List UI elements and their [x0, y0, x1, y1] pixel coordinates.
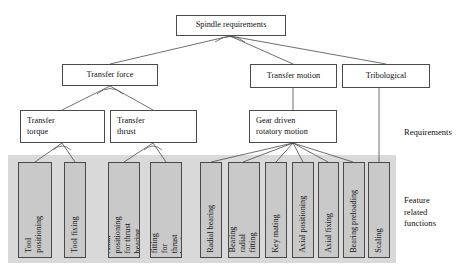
- leaf-axial-positioning-for-thrust-bearing[interactable]: Axial positioning for thrust bearing: [108, 162, 140, 258]
- leaf-label: Bearing preloading: [349, 190, 359, 253]
- leaf-tool-positioning[interactable]: Tool positioning: [18, 162, 52, 258]
- leaf-scaling[interactable]: Scaling: [368, 162, 390, 258]
- leaf-label: Axial positioning: [298, 196, 308, 253]
- diagram-canvas: Spindle requirements Transfer force Tran…: [0, 0, 466, 273]
- leaf-radial-fitting-for-thrust-bearing[interactable]: Radial fitting for thrust bearing: [150, 162, 182, 258]
- node-gear-driven-rotatory-motion[interactable]: Gear driven rotatory motion: [249, 110, 337, 143]
- node-transfer-motion[interactable]: Transfer motion: [250, 64, 337, 88]
- node-spindle-requirements[interactable]: Spindle requirements: [176, 15, 286, 36]
- node-transfer-thrust[interactable]: Transfer thrust: [110, 110, 197, 143]
- leaf-label: Bearing radial fitting: [228, 227, 258, 253]
- leaf-axial-fixing[interactable]: Axial fixing: [318, 162, 339, 258]
- leaf-axial-positioning[interactable]: Axial positioning: [292, 162, 314, 258]
- leaf-label: Scaling: [374, 228, 384, 253]
- node-transfer-torque[interactable]: Transfer torque: [20, 110, 105, 143]
- label-feature-related-functions: Feature related functions: [404, 195, 436, 230]
- leaf-label: Axial positioning for thrust bearing: [108, 216, 140, 253]
- node-tribological[interactable]: Tribological: [342, 64, 430, 88]
- leaf-radial-bearing[interactable]: Radial bearing: [200, 162, 222, 258]
- leaf-label: Radial fitting for thrust bearing: [150, 228, 182, 253]
- leaf-tool-fixing[interactable]: Tool fixing: [64, 162, 86, 258]
- leaf-bearing-radial-fitting[interactable]: Bearing radial fitting: [228, 162, 260, 258]
- leaf-label: Tool fixing: [70, 217, 80, 254]
- leaf-label: Axial fixing: [324, 213, 334, 253]
- leaf-key-mating[interactable]: Key mating: [265, 162, 287, 258]
- node-transfer-force[interactable]: Transfer force: [62, 64, 158, 86]
- label-requirements: Requirements: [404, 127, 452, 139]
- leaf-label: Key mating: [271, 215, 281, 253]
- leaf-label: Radial bearing: [206, 205, 216, 253]
- leaf-bearing-preloading[interactable]: Bearing preloading: [343, 162, 365, 258]
- leaf-label: Tool positioning: [24, 216, 44, 253]
